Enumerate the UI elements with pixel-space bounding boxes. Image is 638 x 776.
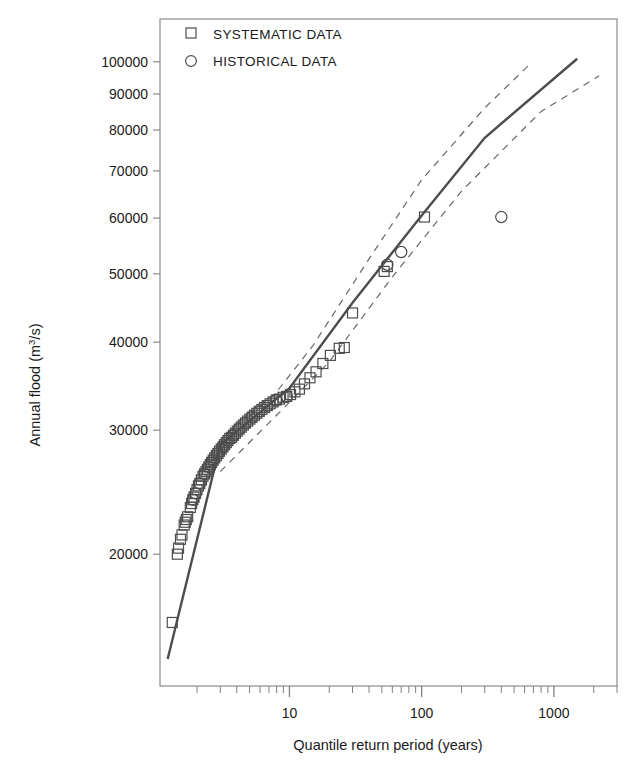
y-axis-label: Annual flood (m3/s)	[26, 324, 43, 447]
legend-marker-circle	[186, 56, 197, 67]
y-tick-label: 30000	[109, 422, 148, 438]
fit-line-path	[168, 59, 578, 659]
legend-label-systematic: SYSTEMATIC DATA	[213, 27, 342, 42]
legend-label-historical: HISTORICAL DATA	[213, 54, 337, 69]
x-tick-label: 10	[282, 705, 298, 721]
x-tick-label: 1000	[538, 705, 569, 721]
legend: SYSTEMATIC DATA HISTORICAL DATA	[186, 27, 342, 69]
chart-figure: 2000030000400005000060000700008000090000…	[0, 0, 638, 776]
y-tick-label: 100000	[101, 54, 148, 70]
plot-border	[160, 19, 617, 686]
svg-text:Annual flood (m3/s): Annual flood (m3/s)	[26, 324, 43, 447]
data-point-circle	[396, 246, 407, 257]
y-tick-label: 50000	[109, 266, 148, 282]
plot-frame	[160, 19, 617, 686]
confidence-band-line	[220, 76, 599, 472]
y-axis-ticks	[153, 62, 160, 554]
confidence-band-line	[250, 65, 530, 416]
systematic-data-points	[167, 212, 429, 627]
y-tick-label: 60000	[109, 210, 148, 226]
y-tick-label: 90000	[109, 86, 148, 102]
y-tick-label: 80000	[109, 122, 148, 138]
y-tick-label: 70000	[109, 163, 148, 179]
y-axis-tick-labels: 2000030000400005000060000700008000090000…	[101, 54, 148, 562]
x-tick-label: 100	[410, 705, 434, 721]
x-axis-tick-labels: 101001000	[282, 705, 570, 721]
historical-data-points	[187, 211, 507, 505]
flood-frequency-plot: 2000030000400005000060000700008000090000…	[0, 0, 638, 776]
fit-line	[168, 59, 578, 659]
y-axis-label-tail: /s)	[27, 324, 43, 340]
data-point-circle	[496, 211, 507, 222]
y-tick-label: 20000	[109, 546, 148, 562]
y-tick-label: 40000	[109, 334, 148, 350]
legend-marker-square	[186, 28, 196, 38]
confidence-bands	[220, 65, 599, 472]
x-axis-label: Quantile return period (years)	[293, 737, 482, 753]
y-axis-label-base: Annual flood (m	[27, 345, 43, 447]
